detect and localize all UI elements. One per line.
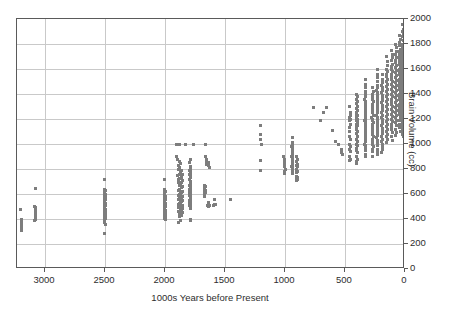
x-tick-mark: [284, 268, 285, 272]
x-tick-label: 3000: [33, 275, 54, 285]
y-tick-mark: [404, 243, 408, 244]
y-tick-mark: [404, 193, 408, 194]
x-tick-label: 1500: [213, 275, 234, 285]
x-tick-mark: [344, 268, 345, 272]
x-tick-label: 1000: [273, 275, 294, 285]
scatter-chart: 0200400600800100012001400160018002000 30…: [0, 0, 461, 311]
x-tick-label: 2000: [153, 275, 174, 285]
x-tick-label: 0: [401, 275, 406, 285]
x-tick-mark: [164, 268, 165, 272]
y-tick-mark: [404, 43, 408, 44]
y-tick-mark: [404, 93, 408, 94]
x-tick-mark: [44, 268, 45, 272]
y-axis-title: Brain Volume (cc): [407, 92, 418, 202]
y-tick-mark: [404, 118, 408, 119]
x-tick-mark: [224, 268, 225, 272]
x-axis-title: 1000s Years before Present: [0, 292, 420, 303]
x-tick-label: 500: [336, 275, 352, 285]
x-tick-mark: [104, 268, 105, 272]
y-tick-mark: [404, 268, 408, 269]
y-tick-mark: [404, 143, 408, 144]
x-axis: 300025002000150010005000: [0, 0, 461, 311]
y-tick-mark: [404, 68, 408, 69]
y-tick-mark: [404, 18, 408, 19]
y-tick-mark: [404, 168, 408, 169]
x-tick-label: 2500: [93, 275, 114, 285]
y-tick-mark: [404, 218, 408, 219]
